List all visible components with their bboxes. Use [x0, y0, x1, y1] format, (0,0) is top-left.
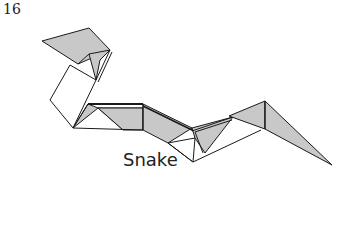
head-side: [89, 50, 110, 80]
body-segment-3: [192, 117, 233, 153]
body-segment-1-shade: [98, 108, 143, 130]
caption: Snake: [123, 149, 178, 170]
neck: [50, 65, 96, 128]
tail-upper: [229, 101, 265, 129]
tail: [265, 101, 332, 165]
